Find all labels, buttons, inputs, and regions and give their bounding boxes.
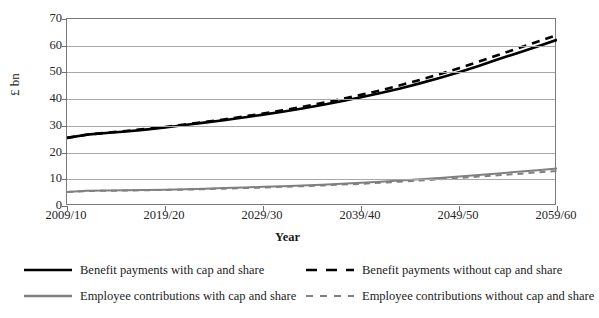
legend-item-employee-with-cap[interactable]: Employee contributions with cap and shar…	[24, 286, 296, 306]
gridline-horizontal	[67, 153, 555, 154]
series-layer	[67, 19, 557, 206]
y-axis-tick	[62, 153, 67, 154]
legend-swatch-dashed-gray-icon	[306, 290, 354, 302]
gridline-horizontal	[67, 126, 555, 127]
y-axis-title: £ bn	[8, 73, 21, 96]
y-axis-tick	[62, 46, 67, 47]
x-axis-tick-label: 2039/40	[315, 209, 405, 222]
legend-item-benefit-without-cap[interactable]: Benefit payments without cap and share	[306, 260, 562, 280]
y-axis-tick-label: 30	[22, 119, 62, 132]
legend-label: Employee contributions with cap and shar…	[80, 289, 296, 303]
legend-label: Employee contributions without cap and s…	[362, 289, 594, 303]
x-axis-tick-label: 2029/30	[217, 209, 307, 222]
legend-swatch-solid-gray-icon	[24, 290, 72, 302]
gridline-horizontal	[67, 72, 555, 73]
series-line	[67, 169, 557, 193]
y-axis-tick	[62, 179, 67, 180]
x-axis-tick-label: 2049/50	[413, 209, 503, 222]
legend-item-benefit-with-cap[interactable]: Benefit payments with cap and share	[24, 260, 264, 280]
legend-swatch-solid-black-icon	[24, 264, 72, 276]
gridline-horizontal	[67, 179, 555, 180]
series-line	[67, 40, 557, 138]
y-axis-tick-label: 20	[22, 146, 62, 159]
y-axis-tick	[62, 99, 67, 100]
plot-area	[66, 18, 556, 205]
x-axis-tick-label: 2009/10	[21, 209, 111, 222]
y-axis-tick-label: 60	[22, 39, 62, 52]
y-axis-tick	[62, 72, 67, 73]
y-axis-tick-label: 70	[22, 12, 62, 25]
legend-label: Benefit payments without cap and share	[362, 263, 562, 277]
gridline-horizontal	[67, 46, 555, 47]
legend-swatch-dashed-black-icon	[306, 264, 354, 276]
legend-item-employee-without-cap[interactable]: Employee contributions without cap and s…	[306, 286, 594, 306]
y-axis-tick	[62, 19, 67, 20]
y-axis-tick-label: 40	[22, 92, 62, 105]
chart-legend: Benefit payments with cap and share Bene…	[0, 258, 575, 314]
y-axis-tick-label: 50	[22, 65, 62, 78]
x-axis-title: Year	[0, 230, 575, 245]
x-axis-tick-label: 2059/60	[511, 209, 599, 222]
series-line	[67, 35, 557, 138]
y-axis-tick-label: 10	[22, 172, 62, 185]
gridline-horizontal	[67, 99, 555, 100]
y-axis-tick	[62, 126, 67, 127]
x-axis-tick-label: 2019/20	[119, 209, 209, 222]
legend-label: Benefit payments with cap and share	[80, 263, 264, 277]
